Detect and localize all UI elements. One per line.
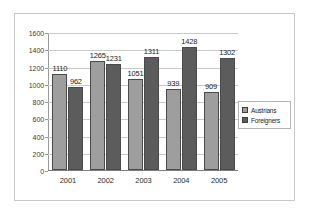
bar[interactable]: 962 — [68, 87, 83, 170]
bar-group: 11109622001 — [49, 33, 87, 170]
y-axis-tick-label: 1400 — [29, 47, 44, 54]
y-axis-tick-mark — [45, 171, 48, 172]
y-axis-tick-label: 600 — [33, 116, 44, 123]
bar-group: 90913022005 — [200, 33, 238, 170]
y-axis-tick-label: 0 — [40, 168, 44, 175]
x-axis-line — [48, 170, 238, 171]
bar-value-label: 962 — [70, 77, 82, 86]
y-axis-tick-mark — [45, 102, 48, 103]
bar[interactable]: 1302 — [220, 58, 235, 170]
legend-swatch-icon — [242, 107, 248, 113]
y-axis-tick-mark — [45, 85, 48, 86]
bar-value-label: 1110 — [53, 64, 68, 73]
y-axis-tick-label: 800 — [33, 99, 44, 106]
bar[interactable]: 909 — [204, 92, 219, 170]
bar[interactable]: 1311 — [144, 57, 159, 170]
chart-frame: 02004006008001000120014001600 1110962200… — [14, 13, 295, 201]
legend-swatch-icon — [242, 117, 248, 123]
bar[interactable]: 1428 — [182, 47, 197, 170]
bar-value-label: 1231 — [106, 54, 122, 63]
chart-legend: AustriansForeigners — [238, 101, 291, 129]
bar[interactable]: 1265 — [90, 61, 105, 170]
y-axis-tick-label: 1200 — [29, 64, 44, 71]
x-axis-tick-label: 2005 — [211, 176, 227, 185]
bar-groups: 1110962200112651231200210511311200393914… — [49, 33, 238, 170]
bar[interactable]: 939 — [166, 89, 181, 170]
x-axis-tick-label: 2002 — [98, 176, 114, 185]
x-axis-tick-label: 2003 — [135, 176, 151, 185]
y-axis-tick-label: 200 — [33, 150, 44, 157]
bar-value-label: 909 — [205, 82, 217, 91]
legend-item[interactable]: Foreigners — [242, 115, 288, 125]
y-axis-tick-mark — [45, 154, 48, 155]
bar-value-label: 1265 — [90, 51, 106, 60]
legend-item[interactable]: Austrians — [242, 105, 288, 115]
x-axis-tick-label: 2004 — [173, 176, 189, 185]
bar-value-label: 939 — [167, 79, 179, 88]
bar-value-label: 1302 — [219, 48, 235, 57]
bar-group: 126512312002 — [87, 33, 125, 170]
y-axis-tick-label: 1600 — [29, 30, 44, 37]
x-axis-tick-label: 2001 — [60, 176, 76, 185]
plot-area: 02004006008001000120014001600 1110962200… — [48, 33, 238, 171]
y-axis-tick-mark — [45, 50, 48, 51]
bar[interactable]: 1051 — [128, 79, 143, 170]
y-axis-tick-mark — [45, 68, 48, 69]
bar-group: 93914282004 — [162, 33, 200, 170]
y-axis-tick-mark — [45, 119, 48, 120]
bar-group: 105113112003 — [125, 33, 163, 170]
y-axis-tick-label: 1000 — [29, 81, 44, 88]
bar-value-label: 1051 — [128, 69, 144, 78]
legend-label: Foreigners — [251, 117, 280, 124]
y-axis-tick-mark — [45, 137, 48, 138]
bar-value-label: 1311 — [144, 47, 159, 56]
bar-value-label: 1428 — [181, 37, 197, 46]
legend-label: Austrians — [251, 107, 276, 114]
bar[interactable]: 1110 — [52, 74, 67, 170]
y-axis-tick-label: 400 — [33, 133, 44, 140]
y-axis-tick-mark — [45, 33, 48, 34]
bar[interactable]: 1231 — [106, 64, 121, 170]
